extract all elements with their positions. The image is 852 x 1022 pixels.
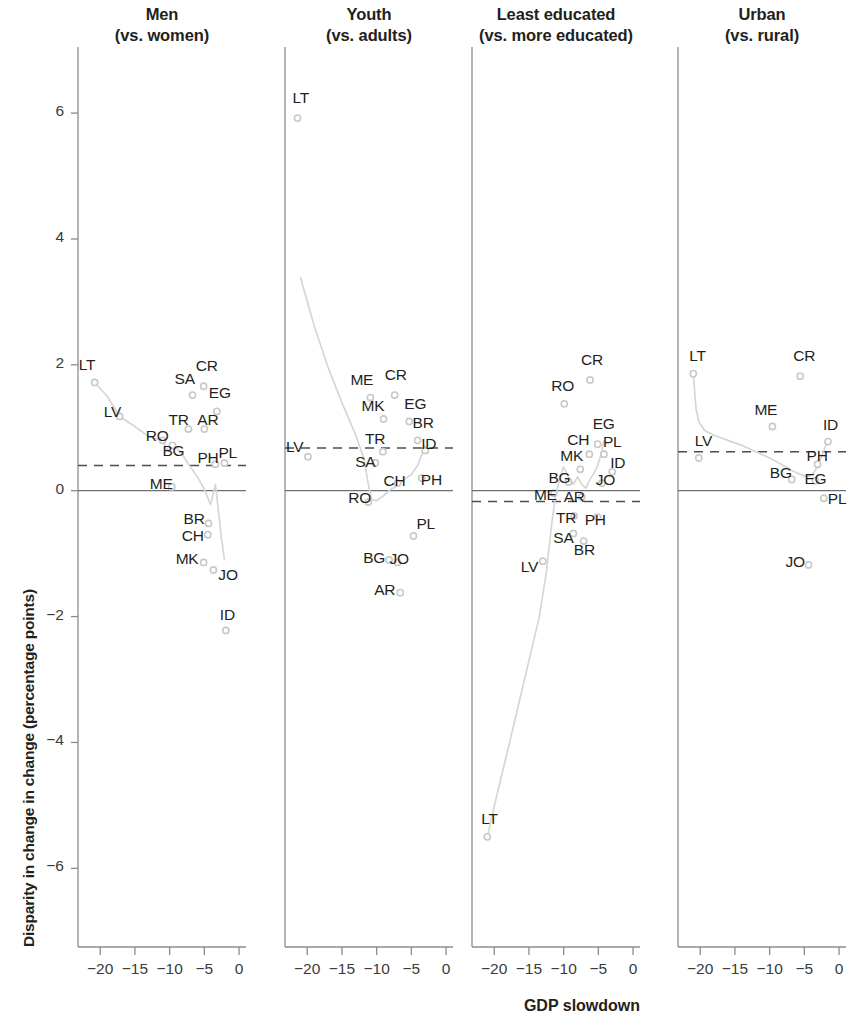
point-label-ph: PH	[197, 449, 218, 467]
point-label-eg: EG	[209, 384, 231, 402]
panel-title-1: Men(vs. women)	[44, 4, 280, 46]
x-tick-label: 0	[817, 960, 852, 978]
panel-title-line2: (vs. more educated)	[438, 25, 674, 46]
data-point	[392, 392, 398, 398]
point-label-me: ME	[350, 371, 373, 389]
y-tick-label: 4	[0, 228, 64, 246]
point-label-eg: EG	[593, 415, 615, 433]
data-point	[189, 392, 195, 398]
point-label-ph: PH	[421, 471, 442, 489]
data-point	[380, 449, 386, 455]
point-label-ph: PH	[807, 447, 828, 465]
point-label-sa: SA	[175, 370, 195, 388]
point-label-me: ME	[534, 486, 557, 504]
point-label-ar: AR	[564, 488, 585, 506]
point-label-ch: CH	[383, 472, 405, 490]
figure-root: −6−4−20246Disparity in change in change …	[0, 0, 852, 1022]
point-label-lt: LT	[292, 89, 309, 107]
data-point	[825, 439, 831, 445]
data-point	[406, 418, 412, 424]
point-label-cr: CR	[793, 347, 815, 365]
y-tick-label: 0	[0, 480, 64, 498]
point-label-pl: PL	[828, 490, 847, 508]
point-label-jo: JO	[389, 550, 408, 568]
point-label-br: BR	[413, 414, 434, 432]
point-label-sa: SA	[553, 529, 573, 547]
point-label-mk: MK	[362, 397, 385, 415]
data-point	[690, 371, 696, 377]
point-label-lv: LV	[286, 438, 303, 456]
data-point	[587, 377, 593, 383]
data-point	[821, 495, 827, 501]
point-label-id: ID	[220, 606, 235, 624]
y-tick-label: 6	[0, 102, 64, 120]
data-point	[205, 520, 211, 526]
plot-canvas	[0, 0, 852, 1022]
point-label-bg: BG	[363, 549, 385, 567]
point-label-cr: CR	[581, 351, 603, 369]
data-point	[201, 559, 207, 565]
point-label-mk: MK	[176, 550, 199, 568]
data-point	[92, 379, 98, 385]
point-label-mk: MK	[560, 447, 583, 465]
point-label-eg: EG	[804, 470, 826, 488]
data-point	[205, 532, 211, 538]
point-label-sa: SA	[355, 453, 375, 471]
point-label-me: ME	[754, 401, 777, 419]
point-label-ar: AR	[374, 581, 395, 599]
data-point	[210, 567, 216, 573]
data-point	[805, 562, 811, 568]
data-point	[201, 383, 207, 389]
point-label-lt: LT	[689, 347, 706, 365]
data-point	[415, 437, 421, 443]
point-label-lv: LV	[521, 558, 538, 576]
data-point	[577, 466, 583, 472]
panel-title-line2: (vs. women)	[44, 25, 280, 46]
point-label-eg: EG	[404, 395, 426, 413]
panel-title-line2: (vs. rural)	[644, 25, 852, 46]
point-label-bg: BG	[548, 469, 570, 487]
data-point	[540, 558, 546, 564]
point-label-pl: PL	[416, 515, 435, 533]
point-label-br: BR	[574, 541, 595, 559]
data-point	[484, 834, 490, 840]
data-point	[586, 451, 592, 457]
point-label-br: BR	[184, 510, 205, 528]
point-label-bg: BG	[770, 464, 792, 482]
point-label-lt: LT	[481, 810, 498, 828]
point-label-me: ME	[150, 475, 173, 493]
point-label-ro: RO	[348, 489, 371, 507]
data-point	[294, 115, 300, 121]
point-label-cr: CR	[196, 357, 218, 375]
point-label-jo: JO	[596, 471, 615, 489]
point-label-ro: RO	[551, 377, 574, 395]
point-label-bg: BG	[162, 442, 184, 460]
point-label-ar: AR	[197, 411, 218, 429]
panel-title-3: Least educated(vs. more educated)	[438, 4, 674, 46]
point-label-tr: TR	[365, 430, 385, 448]
point-label-id: ID	[610, 454, 625, 472]
point-label-jo: JO	[218, 566, 237, 584]
panel-title-line1: Least educated	[497, 5, 616, 23]
point-label-tr: TR	[168, 411, 188, 429]
point-label-id: ID	[823, 416, 838, 434]
point-label-cr: CR	[385, 366, 407, 384]
y-tick-label: 2	[0, 354, 64, 372]
data-point	[595, 441, 601, 447]
data-point	[305, 454, 311, 460]
data-point	[797, 373, 803, 379]
data-point	[696, 455, 702, 461]
data-point	[410, 533, 416, 539]
data-point	[397, 590, 403, 596]
point-label-pl: PL	[218, 444, 237, 462]
panel-title-line1: Men	[146, 5, 179, 23]
y-axis-title: Disparity in change in change (percentag…	[20, 589, 38, 947]
point-label-ch: CH	[182, 527, 204, 545]
panel-title-line1: Urban	[738, 5, 785, 23]
point-label-id: ID	[421, 435, 436, 453]
data-point	[601, 451, 607, 457]
data-point	[223, 627, 229, 633]
point-label-pl: PL	[603, 433, 622, 451]
data-point	[561, 401, 567, 407]
x-tick-label: 0	[424, 960, 468, 978]
